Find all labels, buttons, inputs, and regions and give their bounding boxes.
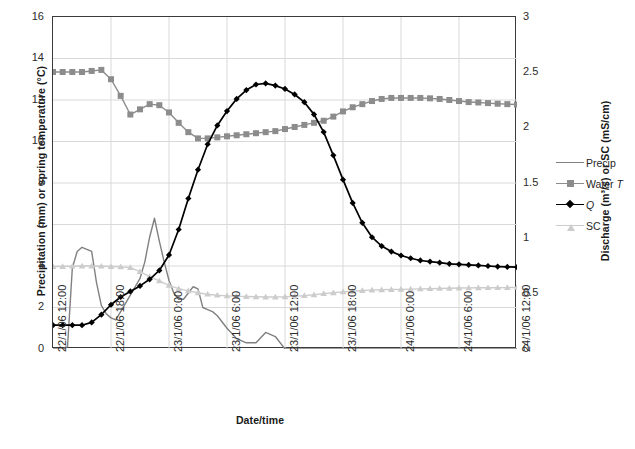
legend-item-sc[interactable]: SC: [556, 215, 635, 236]
x-tick: 24/1/06 6:00: [463, 291, 474, 352]
legend-label: Q: [584, 199, 594, 211]
legend-swatch-square-icon: [556, 177, 584, 191]
legend-swatch-triangle-icon: [556, 219, 584, 233]
y-tick-left: 16: [10, 11, 44, 22]
legend-swatch-none-icon: [556, 156, 584, 170]
x-tick: 24/1/06 12:00: [521, 285, 532, 352]
y-tick-left: 0: [10, 343, 44, 354]
y-tick-left: 14: [10, 52, 44, 63]
x-tick: 23/1/06 6:00: [231, 291, 242, 352]
y-tick-left: 10: [10, 135, 44, 146]
x-tick: 22/1/06 18:00: [115, 285, 126, 352]
y-tick-left: 8: [10, 177, 44, 188]
legend-label: Precip: [584, 157, 616, 169]
x-tick: 22/1/06 12:00: [57, 285, 68, 352]
legend-swatch-diamond-icon: [556, 198, 584, 212]
y-tick-left: 4: [10, 260, 44, 271]
x-tick: 24/1/06 0:00: [405, 291, 416, 352]
y-tick-left: 12: [10, 94, 44, 105]
y-tick-left: 2: [10, 301, 44, 312]
x-tick: 23/1/06 0:00: [173, 291, 184, 352]
y-tick-left: 6: [10, 218, 44, 229]
legend-item-q[interactable]: Q: [556, 194, 635, 215]
y-tick-right: 2: [523, 121, 563, 132]
legend-item-precip[interactable]: Precip: [556, 152, 635, 173]
x-tick: 23/1/06 12:00: [289, 285, 300, 352]
y-tick-right: 3: [523, 11, 563, 22]
chart-legend: PrecipWater TQSC: [556, 152, 635, 236]
legend-label: Water T: [584, 178, 623, 190]
chart-container: Precipitation (mm) or spring temperature…: [0, 0, 635, 449]
x-tick: 23/1/06 18:00: [347, 285, 358, 352]
legend-item-water-t[interactable]: Water T: [556, 173, 635, 194]
legend-label: SC: [584, 220, 601, 232]
y-tick-right: 2.5: [523, 66, 563, 77]
x-axis-title: Date/time: [0, 414, 520, 426]
